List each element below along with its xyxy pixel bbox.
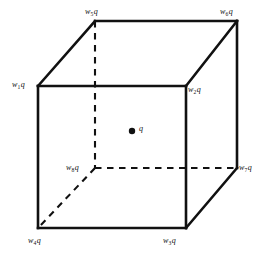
vertex-subscript-w4: 4 xyxy=(33,240,36,246)
vertex-label-w7: w7q xyxy=(239,163,252,172)
vertex-label-w3: w3q xyxy=(163,236,176,245)
vertex-subscript-w6: 6 xyxy=(225,11,228,17)
vertex-subscript-w1: 1 xyxy=(17,84,20,90)
vertex-suffix-w2: q xyxy=(197,85,201,94)
vertex-suffix-w1: q xyxy=(21,80,25,89)
vertex-label-w2: w2q xyxy=(188,85,201,94)
vertex-subscript-w8: 8 xyxy=(71,167,74,173)
vertex-label-w4: w4q xyxy=(28,236,41,245)
vertex-suffix-w3: q xyxy=(172,236,176,245)
vertex-suffix-w7: q xyxy=(248,163,252,172)
center-charge-label: q xyxy=(139,124,143,133)
vertex-label-w1: w1q xyxy=(12,80,25,89)
vertex-suffix-w4: q xyxy=(37,236,41,245)
vertex-label-w6: w6q xyxy=(220,7,233,16)
cube-diagram xyxy=(0,0,272,260)
vertex-suffix-w6: q xyxy=(229,7,233,16)
center-charge-dot xyxy=(129,128,135,134)
vertex-suffix-w8: q xyxy=(75,163,79,172)
vertex-label-w5: w5q xyxy=(85,7,98,16)
vertex-subscript-w2: 2 xyxy=(193,89,196,95)
vertex-subscript-w7: 7 xyxy=(244,167,247,173)
vertex-label-w8: w8q xyxy=(66,163,79,172)
vertex-subscript-w5: 5 xyxy=(90,11,93,17)
vertex-subscript-w3: 3 xyxy=(168,240,171,246)
vertex-suffix-w5: q xyxy=(94,7,98,16)
diagram-background xyxy=(0,0,272,260)
